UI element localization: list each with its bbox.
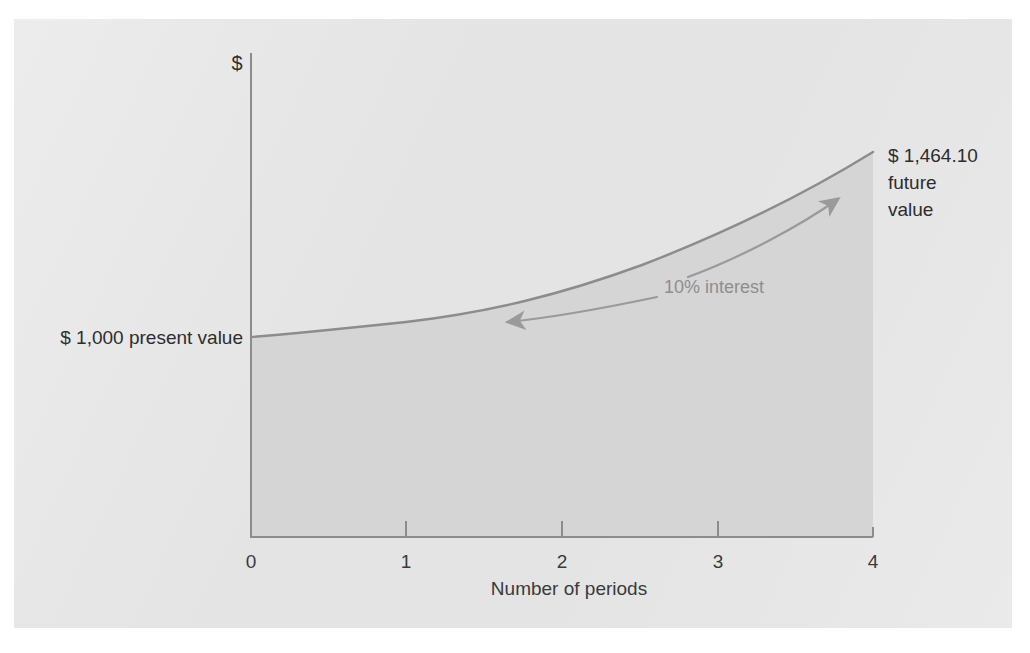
future-value-callout-line3: value: [888, 199, 933, 220]
future-value-callout-line1: $ 1,464.10: [888, 145, 978, 166]
time-value-of-money-chart: 0 1 2 3 4 Number of periods $ $ 1,000 pr…: [0, 0, 1030, 653]
x-tick-label-4: 4: [868, 551, 879, 572]
area-under-curve: [251, 152, 873, 537]
y-axis-unit-label: $: [231, 52, 242, 74]
x-tick-label-2: 2: [557, 551, 568, 572]
x-tick-label-0: 0: [246, 551, 257, 572]
future-value-callout-line2: future: [888, 172, 937, 193]
present-value-callout: $ 1,000 present value: [60, 327, 243, 348]
x-axis-title: Number of periods: [491, 578, 647, 599]
x-tick-label-3: 3: [713, 551, 724, 572]
interest-rate-annotation: 10% interest: [664, 277, 764, 297]
chart-page: 0 1 2 3 4 Number of periods $ $ 1,000 pr…: [0, 0, 1030, 653]
x-tick-label-1: 1: [401, 551, 412, 572]
